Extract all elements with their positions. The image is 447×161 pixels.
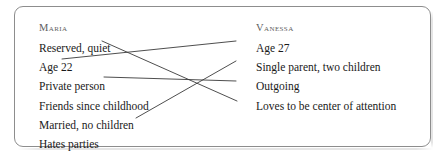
maria-item-list: Reserved, quiet Age 22 Private person Fr… [39, 39, 229, 154]
list-item: Loves to be center of attention [256, 97, 446, 116]
vanessa-item-list: Age 27 Single parent, two children Outgo… [256, 39, 446, 116]
list-item: Friends since childhood [39, 97, 229, 116]
column-heading-vanessa: Vanessa [256, 21, 446, 34]
list-item: Private person [39, 77, 229, 96]
column-vanessa: Vanessa Age 27 Single parent, two childr… [256, 21, 446, 116]
list-item: Married, no children [39, 116, 229, 135]
list-item: Single parent, two children [256, 58, 446, 77]
list-item: Age 27 [256, 39, 446, 58]
diagram-screenshot: Maria Reserved, quiet Age 22 Private per… [0, 0, 447, 161]
list-item: Reserved, quiet [39, 39, 229, 58]
list-item: Age 22 [39, 58, 229, 77]
comparison-card: Maria Reserved, quiet Age 22 Private per… [14, 6, 431, 147]
list-item: Outgoing [256, 77, 446, 96]
column-heading-maria: Maria [39, 21, 229, 34]
list-item: Hates parties [39, 135, 229, 154]
column-maria: Maria Reserved, quiet Age 22 Private per… [39, 21, 229, 154]
paper-edge [0, 156, 447, 161]
